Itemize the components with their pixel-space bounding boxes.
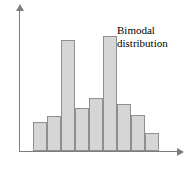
chart-figure: Bimodal distribution <box>0 0 190 173</box>
annotation-line-1: Bimodal <box>117 24 155 36</box>
bar-2 <box>47 116 61 151</box>
bar-6 <box>103 36 117 151</box>
plot-area: Bimodal distribution <box>0 0 190 173</box>
annotation-line-2: distribution <box>117 37 189 50</box>
bimodal-distribution-annotation: Bimodal distribution <box>117 24 189 50</box>
bar-7 <box>117 104 131 151</box>
bar-1 <box>33 122 47 151</box>
bar-5 <box>89 98 103 151</box>
bar-8 <box>131 115 145 151</box>
bar-4 <box>75 108 89 151</box>
bar-9 <box>145 133 159 151</box>
bar-3 <box>61 40 75 151</box>
